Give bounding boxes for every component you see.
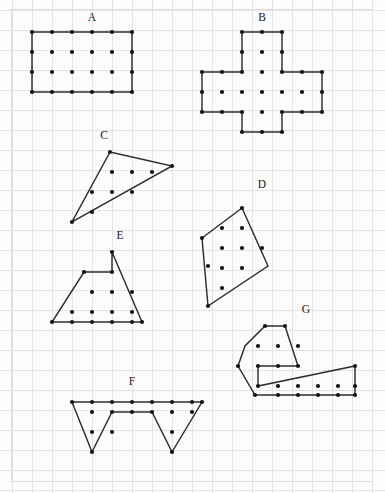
shape-b-dot	[280, 110, 284, 114]
shape-a-dot	[130, 90, 134, 94]
shape-f-dot	[170, 450, 174, 454]
shape-g-dot	[353, 393, 357, 397]
shape-c-outline	[72, 152, 172, 222]
shape-e-dot	[130, 310, 134, 314]
shape-f-dot	[150, 410, 154, 414]
shape-e-dot	[90, 310, 94, 314]
shape-a-dot	[70, 70, 74, 74]
shape-a-dot	[30, 90, 34, 94]
shape-d-dot	[220, 266, 224, 270]
shape-d-dot	[240, 246, 244, 250]
shape-e-dot	[90, 290, 94, 294]
shape-e-dot	[140, 320, 144, 324]
shape-b-dot	[240, 110, 244, 114]
shape-d-dot	[206, 304, 210, 308]
shape-e-dot	[70, 310, 74, 314]
shape-g-dot	[353, 384, 357, 388]
shape-b-dot	[200, 70, 204, 74]
shape-c-dot	[150, 170, 154, 174]
shape-e-dot	[110, 320, 114, 324]
shape-b-dot	[280, 70, 284, 74]
shape-f-dot	[170, 430, 174, 434]
shape-b-dot	[280, 90, 284, 94]
shape-b-dot	[220, 70, 224, 74]
shape-a-dot	[50, 90, 54, 94]
shape-c-label: C	[100, 129, 108, 141]
shape-b-dot	[260, 110, 264, 114]
shape-e-dot	[110, 270, 114, 274]
shape-a-dot	[30, 70, 34, 74]
shape-g-dot	[276, 344, 280, 348]
shape-b-dot	[320, 90, 324, 94]
shape-b-dot	[320, 110, 324, 114]
shape-a-dot	[70, 50, 74, 54]
shape-g-dot	[236, 364, 240, 368]
shape-b-dot	[240, 50, 244, 54]
shape-a-dot	[70, 30, 74, 34]
shape-d-dot	[200, 236, 204, 240]
shape-g-dot	[276, 384, 280, 388]
shape-f-dot	[90, 450, 94, 454]
shape-g-dot	[256, 344, 260, 348]
shape-g-dot	[253, 393, 257, 397]
shape-a-dot	[130, 30, 134, 34]
shape-g-dot	[256, 364, 260, 368]
shape-e-dot	[110, 310, 114, 314]
shape-f-dot	[110, 410, 114, 414]
shape-c[interactable]: C	[70, 129, 174, 224]
shape-g-dot	[256, 384, 260, 388]
shape-c-dot	[108, 150, 112, 154]
shape-d-dot	[220, 226, 224, 230]
shape-d-label: D	[258, 178, 266, 190]
shape-b-dot	[300, 110, 304, 114]
shape-g-dot	[296, 344, 300, 348]
shape-e-dot	[130, 320, 134, 324]
shape-f-label: F	[129, 375, 135, 387]
shape-a-outline	[32, 32, 132, 92]
shape-g-dot	[296, 393, 300, 397]
shape-c-dot	[70, 220, 74, 224]
shape-d[interactable]: D	[200, 178, 268, 308]
shape-b-dot	[280, 30, 284, 34]
shape-a-dot	[90, 30, 94, 34]
shape-a-label: A	[88, 11, 97, 23]
shape-b-dot	[300, 90, 304, 94]
shape-f[interactable]: F	[70, 375, 204, 454]
shape-b-dot	[260, 130, 264, 134]
shape-f-dot	[190, 410, 194, 414]
shape-a-dot	[110, 30, 114, 34]
shape-b-dot	[240, 90, 244, 94]
shape-a[interactable]: A	[30, 11, 134, 94]
shape-g[interactable]: G	[236, 303, 357, 397]
shape-f-dot	[170, 410, 174, 414]
shape-f-dot	[130, 400, 134, 404]
shape-f-dot	[170, 400, 174, 404]
shape-b-dot	[280, 50, 284, 54]
shape-a-dot	[110, 50, 114, 54]
shape-c-dot	[130, 190, 134, 194]
shape-e-dot	[82, 270, 86, 274]
shape-g-dot	[296, 364, 300, 368]
shape-g-label: G	[302, 303, 310, 315]
shape-d-dot	[220, 286, 224, 290]
shape-c-dot	[110, 170, 114, 174]
shape-b-dot	[240, 30, 244, 34]
shape-f-dot	[90, 400, 94, 404]
shape-g-dot	[276, 364, 280, 368]
shape-e-dot	[110, 250, 114, 254]
shape-e-label: E	[116, 229, 123, 241]
shape-g-dot	[316, 393, 320, 397]
shape-b[interactable]: B	[200, 11, 324, 134]
shape-b-dot	[220, 110, 224, 114]
shape-e[interactable]: E	[50, 229, 144, 324]
shape-g-dot	[296, 384, 300, 388]
shape-b-dot	[260, 90, 264, 94]
shape-c-dot	[130, 170, 134, 174]
shape-c-dot	[170, 164, 174, 168]
shape-d-dot	[260, 246, 264, 250]
shape-b-label: B	[258, 11, 266, 23]
shape-g-dot	[336, 384, 340, 388]
shape-e-dot	[130, 290, 134, 294]
shape-b-dot	[260, 70, 264, 74]
shape-a-dot	[110, 90, 114, 94]
